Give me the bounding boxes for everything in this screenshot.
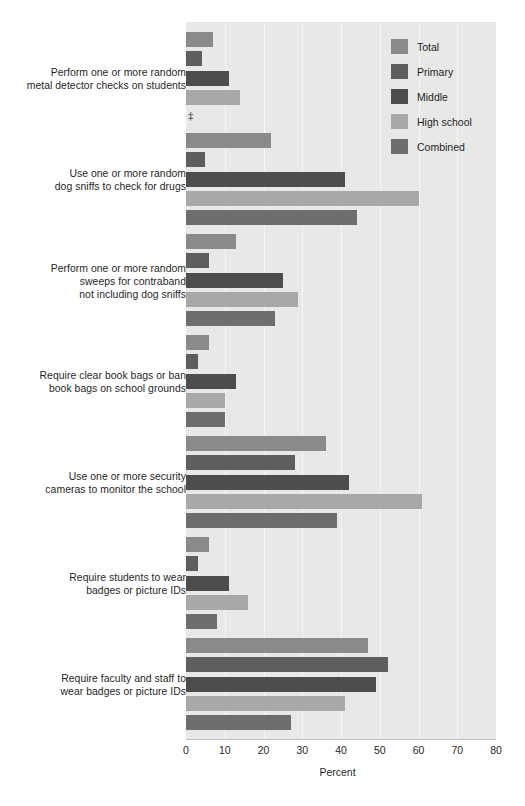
bar-middle [186,71,229,86]
legend-label: Primary [417,66,453,78]
bar-row [186,637,496,656]
category-label-line: book bags on school grounds [6,382,186,395]
bar-combined [186,412,225,427]
bar-row [186,474,496,493]
bar-middle [186,172,345,187]
bar-row [186,575,496,594]
legend-swatch [391,39,408,54]
bar-total [186,335,209,350]
legend-label: Middle [417,91,448,103]
bar-combined [186,311,275,326]
bar-primary [186,556,198,571]
bar-row [186,493,496,512]
bar-row [186,411,496,430]
bar-high-school [186,393,225,408]
legend-swatch [391,64,408,79]
bar-row [186,613,496,632]
bar-middle [186,475,349,490]
bar-total [186,537,209,552]
x-tick-label: 0 [183,744,189,756]
legend-item-primary: Primary [391,59,472,84]
legend-label: High school [417,116,472,128]
category-label: Use one or more randomdog sniffs to chec… [6,167,186,193]
x-axis-title: Percent [0,766,525,778]
x-tick-label: 50 [374,744,386,756]
bar-combined [186,614,217,629]
legend-swatch [391,114,408,129]
bar-row [186,190,496,209]
bar-row [186,594,496,613]
legend-label: Total [417,41,439,53]
bar-row [186,392,496,411]
bar-group [186,637,496,733]
bar-total [186,436,326,451]
x-tick-label: 60 [413,744,425,756]
bar-row [186,310,496,329]
bar-total [186,638,368,653]
category-label-line: Require students to wear [6,571,186,584]
bar-row [186,555,496,574]
bar-primary [186,253,209,268]
bar-total [186,133,271,148]
category-label: Perform one or more randommetal detector… [6,66,186,92]
bar-row [186,373,496,392]
x-tick-label: 70 [451,744,463,756]
bar-primary [186,152,205,167]
bar-group [186,435,496,531]
chart-legend: TotalPrimaryMiddleHigh schoolCombined [391,34,472,159]
bar-middle [186,576,229,591]
bar-combined [186,210,357,225]
bar-high-school [186,191,419,206]
category-label-line: metal detector checks on students [6,79,186,92]
x-tick-label: 80 [490,744,502,756]
bar-row [186,353,496,372]
x-tick-label: 20 [258,744,270,756]
bar-combined [186,513,337,528]
bar-middle [186,677,376,692]
bar-group [186,233,496,329]
bar-row [186,252,496,271]
bar-row [186,291,496,310]
category-label-line: not including dog sniffs [6,288,186,301]
bar-chart: ‡ Perform one or more randommetal detect… [0,0,525,806]
bar-row [186,334,496,353]
x-axis-title-text: Percent [319,766,355,778]
category-label: Use one or more securitycameras to monit… [6,470,186,496]
bar-primary [186,354,198,369]
bar-row [186,536,496,555]
bar-group [186,536,496,632]
legend-item-middle: Middle [391,84,472,109]
bar-high-school [186,90,240,105]
category-label-line: wear badges or picture IDs [6,685,186,698]
category-label: Require students to wearbadges or pictur… [6,571,186,597]
legend-item-total: Total [391,34,472,59]
bar-row [186,272,496,291]
bar-high-school [186,292,298,307]
category-label-line: Require faculty and staff to [6,672,186,685]
bar-primary [186,657,388,672]
bar-row [186,209,496,228]
category-label: Perform one or more randomsweeps for con… [6,262,186,301]
x-tick-label: 10 [219,744,231,756]
bar-high-school [186,696,345,711]
bar-middle [186,273,283,288]
category-label-line: cameras to monitor the school [6,483,186,496]
bar-middle [186,374,236,389]
category-label-line: sweeps for contraband [6,275,186,288]
bar-primary [186,455,295,470]
bar-total [186,32,213,47]
category-label: Require clear book bags or banbook bags … [6,369,186,395]
category-label-line: Use one or more security [6,470,186,483]
bar-row [186,171,496,190]
bar-high-school [186,494,422,509]
category-label-line: Use one or more random [6,167,186,180]
legend-item-high-school: High school [391,109,472,134]
bar-row [186,454,496,473]
legend-label: Combined [417,141,465,153]
x-tick-label: 30 [296,744,308,756]
x-tick-label: 40 [335,744,347,756]
bar-group [186,334,496,430]
bar-row [186,435,496,454]
legend-swatch [391,89,408,104]
bar-row [186,656,496,675]
